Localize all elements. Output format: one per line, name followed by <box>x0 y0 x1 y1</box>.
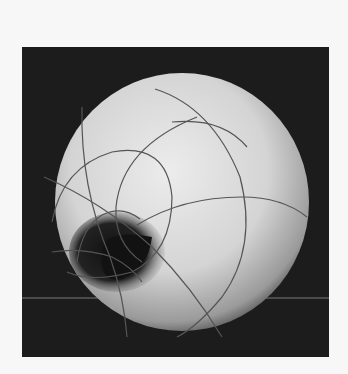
horn-torus-model <box>22 47 329 357</box>
photograph-frame <box>22 47 329 357</box>
